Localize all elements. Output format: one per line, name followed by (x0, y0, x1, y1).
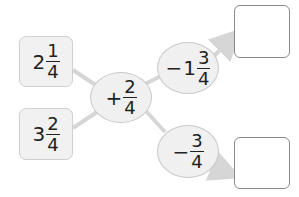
denominator: 4 (47, 62, 58, 81)
fraction: 2 4 (123, 78, 136, 117)
whole-number: 3 (32, 124, 45, 144)
whole-number: 2 (32, 52, 45, 72)
minus-sign: − (172, 142, 189, 162)
whole-number: 1 (183, 58, 196, 78)
input-box-2: 3 2 4 (19, 108, 73, 160)
numerator: 2 (123, 78, 136, 98)
fraction: 2 4 (46, 115, 59, 154)
minus-sign: − (166, 58, 183, 78)
numerator: 3 (197, 49, 210, 69)
operation-ellipse: + 2 4 (90, 72, 152, 123)
input-box-1: 2 1 4 (19, 36, 73, 87)
fraction: 3 4 (190, 132, 203, 171)
numerator: 1 (46, 42, 59, 62)
numerator: 3 (190, 132, 203, 152)
fraction: 3 4 (197, 49, 210, 88)
fraction: 1 4 (46, 42, 59, 81)
branch-ellipse-bottom: − 3 4 (157, 125, 219, 178)
answer-box-top[interactable] (234, 5, 290, 58)
denominator: 4 (191, 152, 202, 171)
branch-ellipse-top: − 1 3 4 (157, 42, 219, 94)
denominator: 4 (198, 69, 209, 88)
answer-box-bottom[interactable] (234, 137, 290, 189)
plus-sign: + (105, 88, 122, 108)
numerator: 2 (46, 115, 59, 135)
denominator: 4 (124, 98, 135, 117)
denominator: 4 (47, 135, 58, 154)
